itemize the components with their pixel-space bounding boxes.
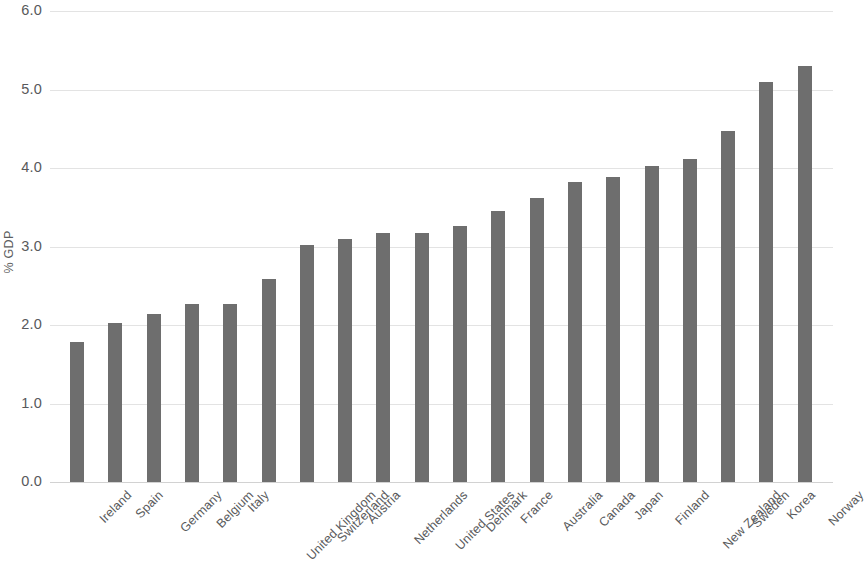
y-tick-label: 0.0: [0, 473, 42, 489]
plot-area: [50, 11, 833, 482]
gridline-1.0: [50, 404, 833, 405]
x-tick-label: Austria: [365, 488, 403, 526]
bar: [376, 233, 390, 482]
bar: [70, 342, 84, 483]
x-tick-label: Canada: [596, 488, 638, 530]
y-tick-label: 3.0: [0, 238, 42, 254]
bar: [415, 233, 429, 482]
x-tick-label: Ireland: [97, 488, 135, 526]
x-tick-label: New Zealand: [720, 488, 784, 552]
bar: [645, 166, 659, 482]
x-tick-label: Netherlands: [412, 488, 471, 547]
x-tick-label: United Kingdom: [303, 488, 378, 563]
bar: [530, 198, 544, 482]
bar: [683, 159, 697, 482]
bar: [798, 66, 812, 482]
bar: [108, 323, 122, 482]
gridline-4.0: [50, 168, 833, 169]
x-tick-label: Norway: [825, 488, 866, 529]
y-tick-label: 1.0: [0, 395, 42, 411]
bar: [606, 177, 620, 482]
x-tick-label: Korea: [784, 488, 818, 522]
bar: [491, 211, 505, 482]
bar: [262, 279, 276, 482]
bar: [568, 182, 582, 482]
x-tick-label: Switzerland: [334, 488, 391, 545]
gridline-0.0: [50, 482, 833, 483]
x-tick-label: Finland: [672, 488, 712, 528]
gridline-2.0: [50, 325, 833, 326]
bar: [453, 226, 467, 482]
x-tick-label: France: [518, 488, 556, 526]
bar: [721, 131, 735, 482]
x-tick-label: Belgium: [214, 488, 257, 531]
x-tick-label: United States: [452, 488, 517, 553]
x-tick-label: Denmark: [483, 488, 530, 535]
gridline-6.0: [50, 11, 833, 12]
x-tick-label: Italy: [245, 488, 272, 515]
y-tick-label: 2.0: [0, 316, 42, 332]
x-tick-label: Sweden: [750, 488, 793, 531]
gridline-5.0: [50, 90, 833, 91]
bar: [185, 304, 199, 482]
y-tick-label: 4.0: [0, 159, 42, 175]
bar: [338, 239, 352, 482]
gridline-3.0: [50, 247, 833, 248]
x-tick-label: Germany: [177, 488, 224, 535]
x-tick-label: Japan: [631, 488, 666, 523]
y-tick-label: 5.0: [0, 81, 42, 97]
x-tick-label: Australia: [559, 488, 605, 534]
bar: [223, 304, 237, 482]
bar: [300, 245, 314, 482]
x-tick-label: Spain: [133, 488, 166, 521]
bar: [147, 314, 161, 482]
bar: [759, 82, 773, 482]
y-tick-label: 6.0: [0, 2, 42, 18]
